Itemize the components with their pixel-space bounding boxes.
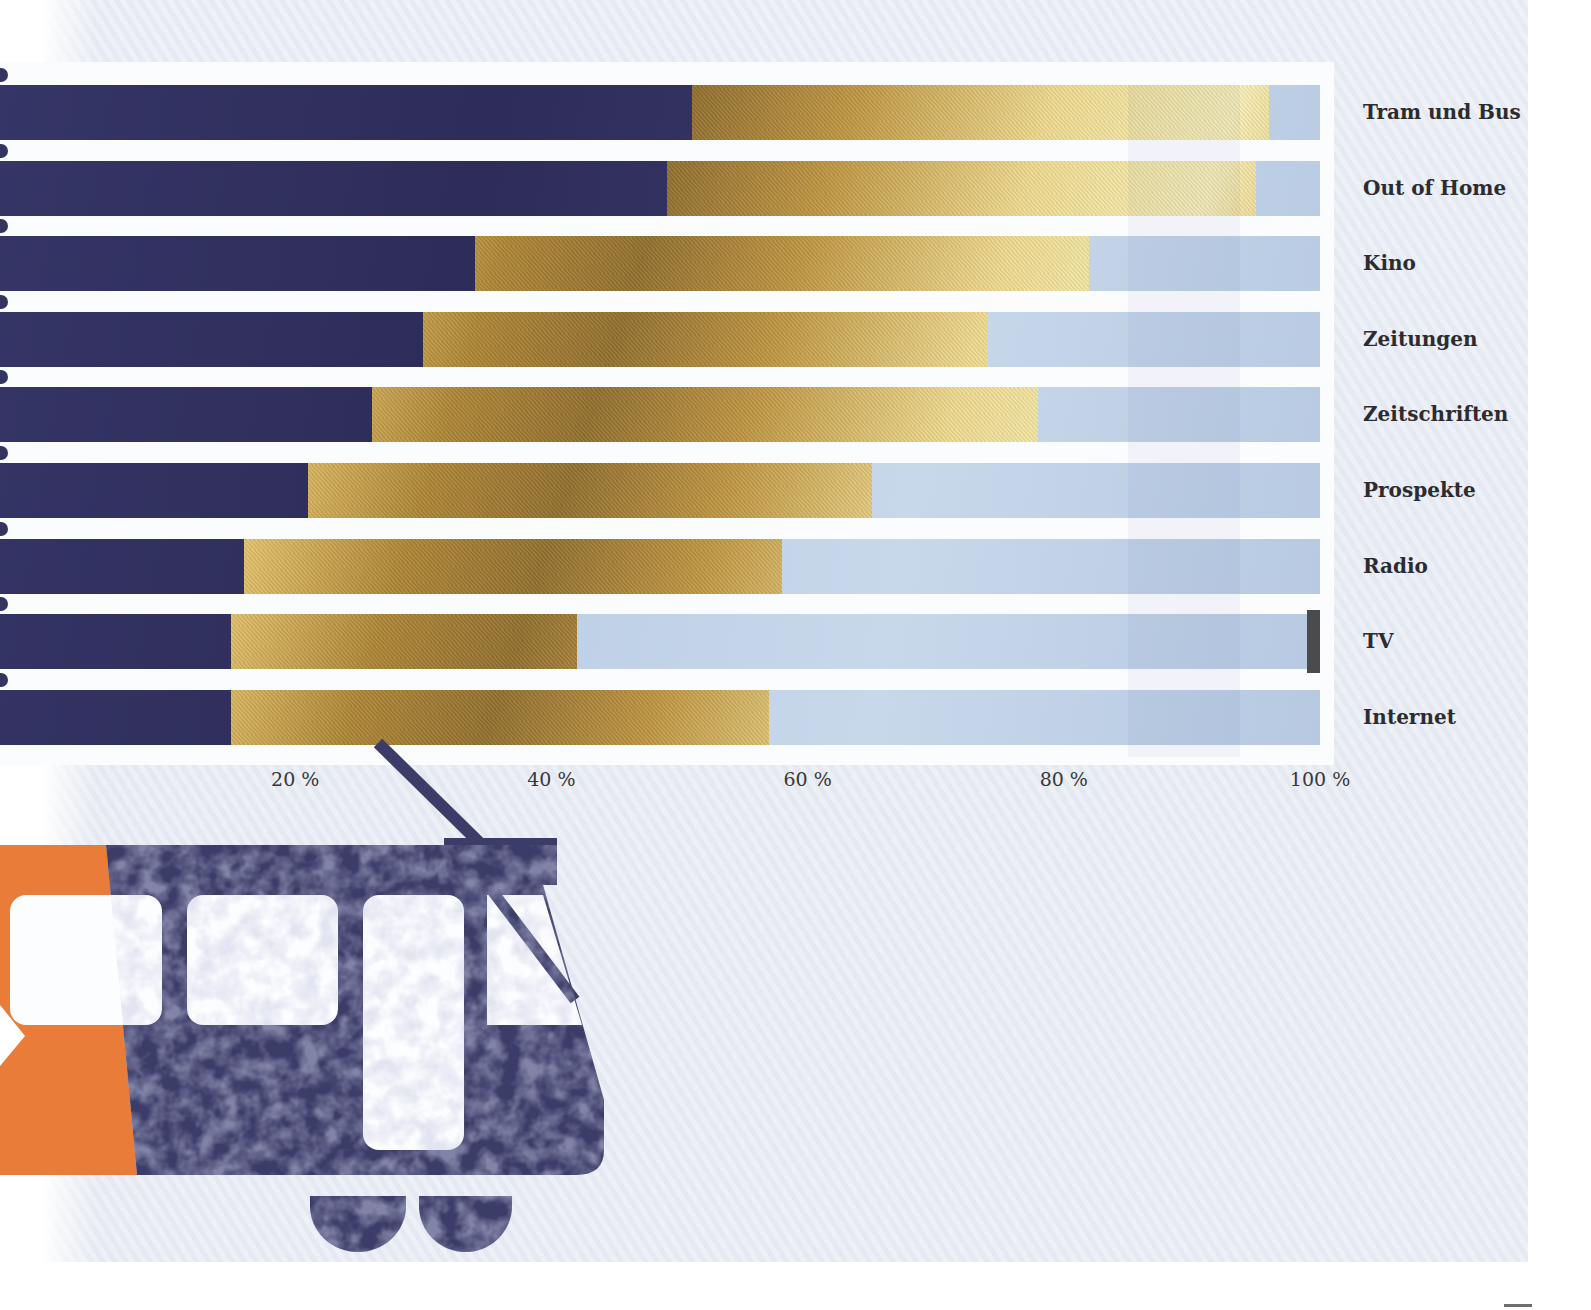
scan-right-edge [1528,0,1591,1310]
page-corner-mark [1504,1304,1532,1307]
pantograph-front-arm-icon [378,743,489,852]
tram-icon [0,0,1591,1310]
tram-paper-texture [90,825,620,1270]
scanned-page: Tram und BusOut of HomeKinoZeitungenZeit… [0,0,1591,1310]
scan-bottom-edge [0,1262,1591,1310]
